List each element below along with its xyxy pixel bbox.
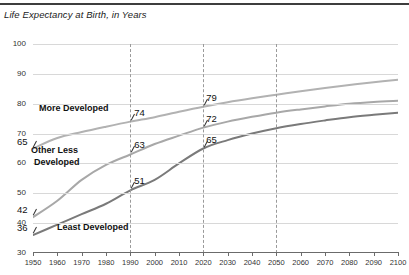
- x-tick-1990: [130, 252, 131, 256]
- reference-line-2020: [203, 44, 204, 253]
- x-axis-label-1970: 1970: [73, 258, 90, 267]
- y-axis-label-60: 60: [0, 158, 26, 167]
- series-label-other-less-developed-line1: Other Less: [31, 145, 78, 156]
- x-tick-1970: [82, 252, 83, 256]
- x-axis-label-2030: 2030: [219, 258, 236, 267]
- series-label-other-less-developed-line2: Developed: [34, 157, 80, 168]
- x-axis-label-2050: 2050: [268, 258, 285, 267]
- y-axis-label-50: 50: [0, 188, 26, 197]
- x-tick-2070: [325, 252, 326, 256]
- x-tick-2030: [228, 252, 229, 256]
- x-axis-label-2100: 2100: [390, 258, 407, 267]
- data-label-1950-more-developed: 65: [17, 136, 28, 147]
- x-tick-2090: [374, 252, 375, 256]
- chart-title: Life Expectancy at Birth, in Years: [4, 9, 147, 20]
- x-axis-label-2070: 2070: [317, 258, 334, 267]
- y-axis-label-30: 30: [0, 248, 26, 257]
- y-axis-label-100: 100: [0, 39, 26, 48]
- x-tick-2000: [155, 252, 156, 256]
- x-tick-2050: [276, 252, 277, 256]
- x-tick-2100: [398, 252, 399, 256]
- series-label-least-developed: Least Developed: [57, 222, 129, 233]
- x-axis-label-1950: 1950: [25, 258, 42, 267]
- x-axis-label-2040: 2040: [244, 258, 261, 267]
- x-tick-2060: [301, 252, 302, 256]
- x-tick-2040: [252, 252, 253, 256]
- x-axis: [33, 252, 398, 253]
- gridline-y-90: [33, 74, 398, 75]
- x-tick-2080: [349, 252, 350, 256]
- x-axis-label-2000: 2000: [146, 258, 163, 267]
- gridline-y-100: [33, 44, 398, 45]
- x-tick-1980: [106, 252, 107, 256]
- gridline-y-60: [33, 163, 398, 164]
- data-label-1950-other-less-developed: 42: [17, 204, 28, 215]
- x-axis-label-2090: 2090: [365, 258, 382, 267]
- reference-line-2050: [276, 44, 277, 253]
- x-tick-1960: [57, 252, 58, 256]
- x-tick-1950: [33, 252, 34, 256]
- x-axis-label-2080: 2080: [341, 258, 358, 267]
- series-label-more-developed: More Developed: [39, 103, 109, 114]
- x-axis-label-2020: 2020: [195, 258, 212, 267]
- y-axis-label-80: 80: [0, 99, 26, 108]
- x-axis-label-2060: 2060: [292, 258, 309, 267]
- x-axis-label-1960: 1960: [49, 258, 66, 267]
- x-tick-2010: [179, 252, 180, 256]
- x-tick-2020: [203, 252, 204, 256]
- y-axis-label-90: 90: [0, 69, 26, 78]
- x-axis-label-1990: 1990: [122, 258, 139, 267]
- gridline-y-50: [33, 193, 398, 194]
- x-axis-label-1980: 1980: [98, 258, 115, 267]
- x-axis-label-2010: 2010: [171, 258, 188, 267]
- header-rule: [0, 3, 409, 5]
- data-label-1950-least-developed: 36: [17, 222, 28, 233]
